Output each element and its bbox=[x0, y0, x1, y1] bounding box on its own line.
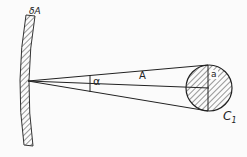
circle-label-sub: 1 bbox=[231, 116, 236, 125]
circle-label: C1 bbox=[223, 110, 236, 125]
target-circle bbox=[186, 65, 232, 111]
angle-label: α bbox=[93, 76, 100, 87]
surface-label: δA bbox=[29, 7, 41, 16]
cone-lower-line bbox=[28, 81, 208, 111]
radius-label: a bbox=[211, 70, 217, 79]
distance-label: A bbox=[139, 71, 146, 81]
cone-upper-line bbox=[28, 65, 208, 81]
diagram-canvas bbox=[0, 0, 247, 157]
axis-line bbox=[28, 81, 209, 88]
